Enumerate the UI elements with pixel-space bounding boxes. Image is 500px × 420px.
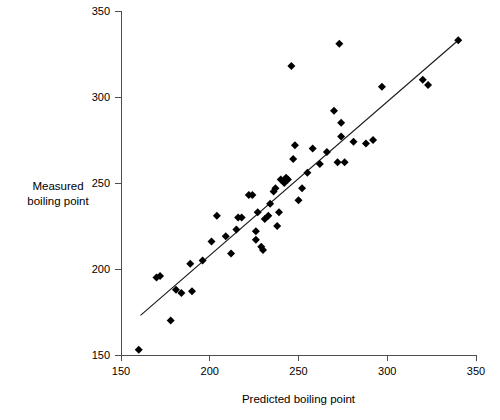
trend-line (141, 40, 459, 315)
data-point (188, 287, 196, 295)
data-point (135, 346, 143, 354)
data-point (350, 138, 358, 146)
data-point (335, 40, 343, 48)
data-point (424, 81, 432, 89)
y-tick-label: 250 (92, 177, 110, 189)
x-tick-label: 300 (378, 365, 396, 377)
data-point (295, 196, 303, 204)
data-point (199, 256, 207, 264)
data-point (369, 136, 377, 144)
plot-area: 150200250300350150200250300350Measuredbo… (0, 0, 500, 420)
data-point (291, 141, 299, 149)
data-point (330, 107, 338, 115)
data-point (208, 237, 216, 245)
data-point (254, 208, 262, 216)
data-point (334, 158, 342, 166)
x-tick-label: 250 (289, 365, 307, 377)
data-point (252, 227, 260, 235)
data-point (341, 158, 349, 166)
y-tick-label: 300 (92, 91, 110, 103)
x-tick-label: 150 (112, 365, 130, 377)
data-point (323, 148, 331, 156)
data-point (273, 222, 281, 230)
data-point (213, 212, 221, 220)
data-point (167, 317, 175, 325)
data-point (298, 184, 306, 192)
x-tick-label: 200 (201, 365, 219, 377)
data-point (337, 119, 345, 127)
data-point (227, 250, 235, 258)
data-point (232, 225, 240, 233)
y-tick-label: 150 (92, 349, 110, 361)
data-point (275, 208, 283, 216)
data-point (186, 260, 194, 268)
data-point (309, 145, 317, 153)
data-point (287, 62, 295, 70)
data-point (289, 155, 297, 163)
data-point (316, 160, 324, 168)
data-point (362, 139, 370, 147)
x-axis-title: Predicted boiling point (242, 393, 356, 405)
data-point (252, 236, 260, 244)
scatter-chart: 150200250300350150200250300350Measuredbo… (0, 0, 500, 420)
data-point (378, 83, 386, 91)
y-tick-label: 200 (92, 263, 110, 275)
data-point (303, 169, 311, 177)
y-axis-title: boiling point (27, 195, 89, 207)
data-point (419, 76, 427, 84)
y-axis-title: Measured (32, 180, 83, 192)
y-tick-label: 350 (92, 5, 110, 17)
x-tick-label: 350 (467, 365, 485, 377)
